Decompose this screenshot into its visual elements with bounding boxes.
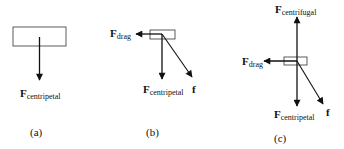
centripetal-label: Fcentripetal [20,87,61,101]
resultant-arrow-icon [162,34,192,77]
resultant-label: f [192,83,196,95]
centrifugal-label: Fcentrifugal [275,3,317,17]
resultant-arrow-icon [297,61,323,104]
drag-label: Fdrag [110,27,131,41]
resultant-label: f [326,106,330,118]
panel-c: Fcentrifugal Fdrag Fcentripetal f (c) [242,3,330,145]
panel-a: Fcentripetal (a) [13,27,66,139]
caption-a: (a) [30,126,43,139]
centripetal-label: Fcentripetal [143,83,184,97]
centripetal-label: Fcentripetal [274,108,315,122]
caption-c: (c) [274,132,287,145]
force-diagram: Fcentripetal (a) Fdrag Fcentripetal f (b… [0,0,344,149]
drag-label: Fdrag [242,55,263,69]
caption-b: (b) [146,126,159,139]
panel-b: Fdrag Fcentripetal f (b) [110,27,196,139]
